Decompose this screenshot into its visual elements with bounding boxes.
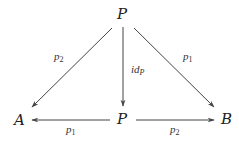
arrow-top-to-b xyxy=(134,28,214,107)
label-top-to-center: idP xyxy=(131,63,145,77)
label-center-to-b: p2 xyxy=(169,123,180,137)
commutative-diagram: P P A B p2 idP p1 p1 p2 xyxy=(0,0,239,141)
node-top-p: P xyxy=(116,5,128,23)
label-top-to-b: p1 xyxy=(182,50,193,64)
arrow-top-to-a xyxy=(32,28,112,107)
node-center-p: P xyxy=(116,110,128,128)
node-b: B xyxy=(220,110,232,128)
node-a: A xyxy=(12,111,25,129)
label-center-to-a: p1 xyxy=(65,123,76,137)
label-top-to-a: p2 xyxy=(53,50,64,64)
